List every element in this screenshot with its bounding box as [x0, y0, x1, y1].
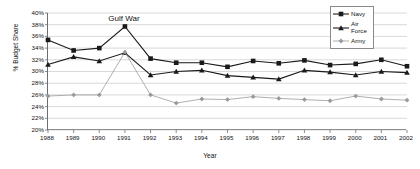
x-tick-label: 1992: [143, 135, 157, 141]
data-point-marker: [46, 38, 51, 43]
data-point-marker: [405, 98, 410, 103]
legend-item-label: AirForce: [351, 21, 367, 34]
x-tick-label: 2001: [373, 135, 387, 141]
y-tick-label: 30%: [18, 68, 44, 74]
chart-legend: NavyAirForceArmy: [330, 6, 374, 49]
data-point-marker: [200, 60, 205, 65]
data-point-marker: [302, 97, 307, 102]
y-tick-label: 40%: [18, 10, 44, 16]
data-point-marker: [405, 64, 410, 69]
data-point-marker: [225, 97, 230, 102]
data-point-marker: [302, 58, 307, 63]
y-tick-label: 28%: [18, 80, 44, 86]
y-tick-label: 24%: [18, 104, 44, 110]
data-point-marker: [276, 61, 281, 66]
x-tick-label: 1997: [271, 135, 285, 141]
y-tick-label: 22%: [18, 115, 44, 121]
x-tick-label: 1988: [40, 135, 54, 141]
x-tick-label: 1989: [66, 135, 80, 141]
x-tick-label: 1998: [297, 135, 311, 141]
data-point-marker: [379, 97, 384, 102]
x-axis-title: Year: [0, 152, 420, 159]
legend-item-label: Navy: [351, 11, 365, 18]
data-point-marker: [97, 93, 102, 98]
data-point-marker: [199, 97, 204, 102]
data-point-marker: [225, 65, 230, 70]
y-axis-tick-labels: 40%38%36%34%32%30%28%26%24%22%20%: [18, 0, 44, 169]
y-tick-label: 26%: [18, 92, 44, 98]
data-point-marker: [276, 96, 281, 101]
legend-item-label: Army: [351, 38, 365, 45]
x-tick-label: 2000: [348, 135, 362, 141]
x-tick-label: 1991: [117, 135, 131, 141]
x-tick-label: 1995: [220, 135, 234, 141]
annotation-label: Gulf War: [108, 14, 139, 23]
legend-triangle-marker-icon: [333, 24, 349, 32]
legend-item-army[interactable]: Army: [333, 37, 371, 45]
data-point-marker: [339, 12, 344, 17]
data-point-marker: [71, 48, 76, 53]
x-tick-label: 2002: [399, 135, 413, 141]
data-point-marker: [174, 101, 179, 106]
data-point-marker: [97, 46, 102, 51]
y-tick-label: 20%: [18, 127, 44, 133]
legend-diamond-marker-icon: [333, 37, 349, 45]
x-tick-label: 1990: [91, 135, 105, 141]
data-point-marker: [71, 93, 76, 98]
data-point-marker: [148, 93, 153, 98]
legend-item-air-force[interactable]: AirForce: [333, 21, 371, 34]
data-point-marker: [339, 39, 344, 44]
y-tick-label: 38%: [18, 22, 44, 28]
x-tick-label: 1993: [168, 135, 182, 141]
budget-share-line-chart: % Budget Share 40%38%36%34%32%30%28%26%2…: [0, 0, 420, 169]
data-point-marker: [353, 94, 358, 99]
data-point-marker: [251, 59, 256, 64]
legend-square-marker-icon: [333, 10, 349, 18]
y-tick-label: 36%: [18, 33, 44, 39]
data-point-marker: [123, 24, 128, 29]
data-point-marker: [353, 62, 358, 67]
x-tick-label: 1996: [245, 135, 259, 141]
data-point-marker: [71, 54, 77, 59]
data-point-marker: [328, 63, 333, 68]
data-point-marker: [174, 60, 179, 65]
data-point-marker: [148, 56, 153, 61]
legend-item-navy[interactable]: Navy: [333, 10, 371, 18]
data-point-marker: [328, 98, 333, 103]
data-point-marker: [379, 58, 384, 63]
x-tick-label: 1994: [194, 135, 208, 141]
x-tick-label: 1999: [322, 135, 336, 141]
y-tick-label: 34%: [18, 45, 44, 51]
data-point-marker: [46, 94, 51, 99]
y-tick-label: 32%: [18, 57, 44, 63]
